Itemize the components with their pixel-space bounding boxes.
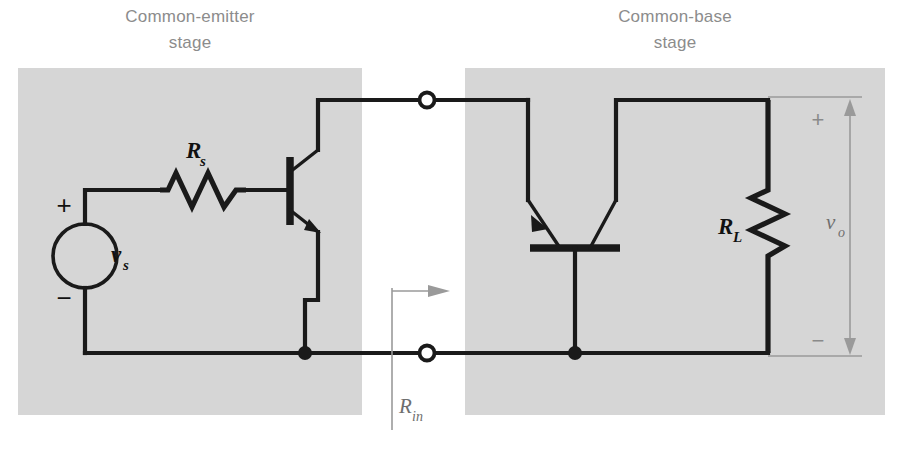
circuit-figure: Common-emitter stage Common-base stage +… [0, 0, 902, 449]
interstage-terminal-top[interactable] [420, 93, 435, 108]
common-emitter-stage-panel [18, 68, 362, 415]
voltage-source-label-main: v [111, 242, 122, 267]
common-emitter-title-line1: Common-emitter [125, 7, 255, 26]
source-resistor-label-sub: s [199, 153, 206, 169]
source-plus-sign: + [56, 190, 71, 220]
source-resistor-label-main: R [185, 138, 201, 163]
load-resistor-label-main: R [717, 214, 733, 239]
common-emitter-ground-node [298, 346, 312, 360]
v-out-plus-sign: + [812, 107, 825, 132]
v-out-label-main: v [826, 210, 836, 234]
load-resistor-label-sub: L [732, 229, 742, 245]
common-base-title-line1: Common-base [618, 7, 732, 26]
v-out-label-sub: o [838, 225, 845, 240]
v-out-minus-sign: − [812, 328, 825, 353]
interstage-terminal-bottom[interactable] [420, 346, 435, 361]
r-in-label-sub: in [412, 409, 423, 424]
source-minus-sign: − [56, 283, 71, 313]
r-in-label-main: R [398, 394, 412, 418]
common-emitter-title-line2: stage [169, 33, 212, 52]
common-base-title-line2: stage [654, 33, 697, 52]
voltage-source-label-sub: s [122, 257, 129, 273]
common-base-ground-node [568, 346, 582, 360]
